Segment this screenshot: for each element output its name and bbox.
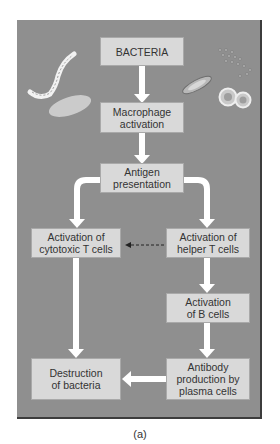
- bacillus-icon: [181, 73, 214, 97]
- node-helper-t-cells: Activation of helper T cells: [166, 228, 250, 258]
- node-macrophage-label: Macrophage activation: [113, 106, 171, 130]
- arrow-antigen-to-helper: [184, 180, 207, 220]
- coccus-cluster-icon: [218, 48, 251, 77]
- spirochete-icon: [30, 54, 74, 97]
- node-bacteria-label: BACTERIA: [116, 46, 169, 58]
- node-helper-label: Activation of helper T cells: [177, 231, 239, 255]
- node-antigen-presentation: Antigen presentation: [100, 163, 184, 193]
- node-cytotoxic-t-cells: Activation of cytotoxic T cells: [31, 228, 121, 258]
- node-macrophage-activation: Macrophage activation: [100, 102, 184, 133]
- arrow-antigen-to-cytotoxic: [77, 180, 100, 220]
- node-cytotoxic-label: Activation of cytotoxic T cells: [39, 231, 113, 255]
- node-bacteria: BACTERIA: [100, 37, 184, 66]
- node-antibody-label: Antibody production by plasma cells: [176, 361, 239, 397]
- diplococcus-icon: [220, 89, 251, 108]
- node-b-cells: Activation of B cells: [166, 293, 250, 323]
- figure-caption: (a): [0, 428, 280, 440]
- rod-bacterium-icon: [46, 91, 93, 122]
- node-destruction-label: Destruction of bacteria: [49, 367, 102, 391]
- node-antibody-production: Antibody production by plasma cells: [166, 358, 250, 400]
- node-destruction-of-bacteria: Destruction of bacteria: [31, 358, 121, 400]
- node-antigen-label: Antigen presentation: [113, 166, 171, 190]
- node-bcells-label: Activation of B cells: [185, 296, 231, 320]
